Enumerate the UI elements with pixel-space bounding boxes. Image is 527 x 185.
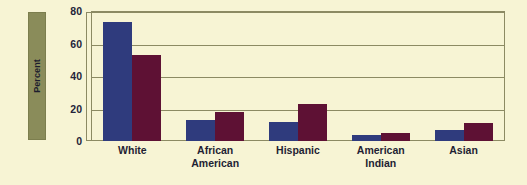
- bar: [132, 55, 161, 141]
- y-axis-title: Percent: [32, 59, 42, 93]
- bar: [464, 123, 493, 141]
- category-label-line: White: [91, 144, 174, 157]
- bar-group: [269, 11, 327, 141]
- bar: [269, 122, 298, 142]
- category-label-line: African: [174, 144, 257, 157]
- y-tick-label: 0: [52, 136, 82, 147]
- category-label: AfricanAmerican: [174, 144, 257, 170]
- category-label-line: American: [339, 144, 422, 157]
- bar: [435, 130, 464, 141]
- category-label-line: American: [174, 157, 257, 170]
- bar-group: [186, 11, 244, 141]
- bar: [352, 135, 381, 142]
- y-tick-label: 80: [52, 6, 82, 17]
- category-label-line: Asian: [422, 144, 505, 157]
- x-axis-category-labels: WhiteAfricanAmericanHispanicAmericanIndi…: [91, 144, 505, 184]
- y-tick-label: 40: [52, 71, 82, 82]
- category-label: Asian: [422, 144, 505, 157]
- category-label: White: [91, 144, 174, 157]
- y-axis-tick-labels: 020406080: [52, 0, 82, 185]
- y-axis-title-block: Percent: [28, 12, 46, 140]
- bar-group: [435, 11, 493, 141]
- category-label: Hispanic: [257, 144, 340, 157]
- y-axis-line: [86, 12, 87, 141]
- bar: [298, 104, 327, 141]
- bar: [381, 133, 410, 141]
- category-label-line: Hispanic: [257, 144, 340, 157]
- bar-chart-figure: Percent 020406080 WhiteAfricanAmericanHi…: [0, 0, 527, 185]
- y-tick-label: 20: [52, 104, 82, 115]
- bars-layer: [91, 11, 505, 141]
- bar: [103, 22, 132, 141]
- bar-group: [103, 11, 161, 141]
- bar: [215, 112, 244, 141]
- category-label-line: Indian: [339, 157, 422, 170]
- bar-group: [352, 11, 410, 141]
- category-label: AmericanIndian: [339, 144, 422, 170]
- y-tick-label: 60: [52, 39, 82, 50]
- bar: [186, 120, 215, 141]
